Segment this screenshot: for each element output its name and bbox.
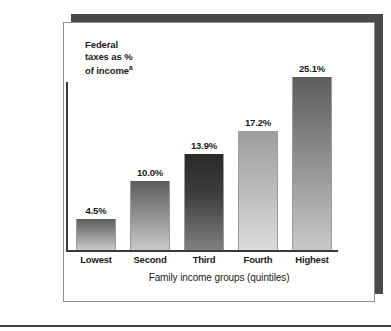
bar-series: 4.5% 10.0% 13.9% 17.2% 25.1% xyxy=(68,60,338,250)
chart-plot-area: Federal taxes as % of incomea 4.5% 10.0%… xyxy=(64,23,374,301)
x-tick-label-fourth: Fourth xyxy=(230,254,286,265)
bar-third[interactable] xyxy=(184,154,224,250)
bar-value-fourth: 17.2% xyxy=(230,117,286,128)
bar-highest[interactable] xyxy=(292,77,332,250)
bottom-horizontal-rule xyxy=(0,325,391,327)
bar-fourth[interactable] xyxy=(238,131,278,250)
x-tick-label-lowest: Lowest xyxy=(68,254,124,265)
bar-slot-highest: 25.1% xyxy=(292,60,332,250)
y-axis-label-line-1: Federal xyxy=(85,39,118,50)
bar-value-third: 13.9% xyxy=(176,140,232,151)
x-axis-tick-labels: Lowest Second Third Fourth Highest xyxy=(68,254,338,270)
x-tick-label-highest: Highest xyxy=(284,254,340,265)
figure-frame: Federal taxes as % of incomea 4.5% 10.0%… xyxy=(63,22,375,302)
bar-value-highest: 25.1% xyxy=(284,63,340,74)
x-axis-title: Family income groups (quintiles) xyxy=(64,272,374,283)
bar-slot-lowest: 4.5% xyxy=(76,60,116,250)
bar-second[interactable] xyxy=(130,181,170,250)
x-tick-label-third: Third xyxy=(176,254,232,265)
x-tick-label-second: Second xyxy=(122,254,178,265)
x-axis-line xyxy=(66,250,338,252)
bar-value-lowest: 4.5% xyxy=(68,205,124,216)
bar-slot-fourth: 17.2% xyxy=(238,60,278,250)
bar-slot-second: 10.0% xyxy=(130,60,170,250)
bar-lowest[interactable] xyxy=(76,219,116,250)
bar-slot-third: 13.9% xyxy=(184,60,224,250)
bar-value-second: 10.0% xyxy=(122,167,178,178)
